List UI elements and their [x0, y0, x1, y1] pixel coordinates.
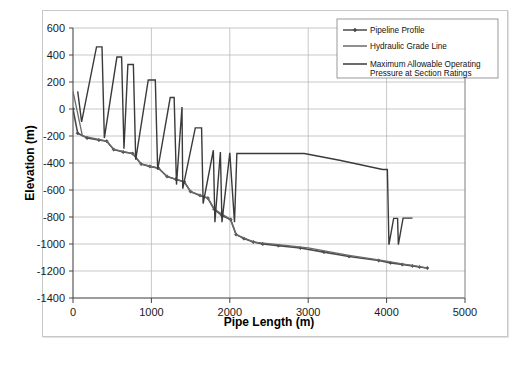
- legend-label: Hydraulic Grade Line: [370, 42, 447, 51]
- x-tick-label: 5000: [453, 306, 477, 318]
- chart-legend[interactable]: Pipeline ProfileHydraulic Grade LineMaxi…: [337, 19, 498, 78]
- y-tick-label: 0: [59, 103, 65, 115]
- y-tick-label: 400: [47, 49, 65, 61]
- x-tick-label: 4000: [374, 306, 398, 318]
- legend-label-line2: Pressure at Section Ratings: [370, 69, 471, 78]
- y-tick-label: 200: [47, 76, 65, 88]
- y-tick-label: 600: [47, 22, 65, 34]
- x-tick-label: 1000: [139, 306, 163, 318]
- legend-label: Pipeline Profile: [370, 26, 425, 35]
- x-axis-title: Pipe Length (m): [224, 315, 315, 329]
- x-tick-label: 0: [70, 306, 76, 318]
- y-axis-title: Elevation (m): [23, 125, 37, 200]
- chart-figure: -1400-1200-1000-800-600-400-200020040060…: [0, 0, 520, 370]
- y-tick-label: -800: [43, 211, 65, 223]
- legend-label: Maximum Allowable Operating: [370, 60, 481, 69]
- y-tick-label: -1200: [37, 265, 65, 277]
- y-tick-label: -400: [43, 157, 65, 169]
- y-tick-label: -1400: [37, 292, 65, 304]
- data-series-layer: [71, 47, 429, 270]
- y-tick-label: -200: [43, 130, 65, 142]
- y-tick-label: -1000: [37, 238, 65, 250]
- pipeline-profile-chart: -1400-1200-1000-800-600-400-200020040060…: [0, 0, 520, 370]
- y-tick-label: -600: [43, 184, 65, 196]
